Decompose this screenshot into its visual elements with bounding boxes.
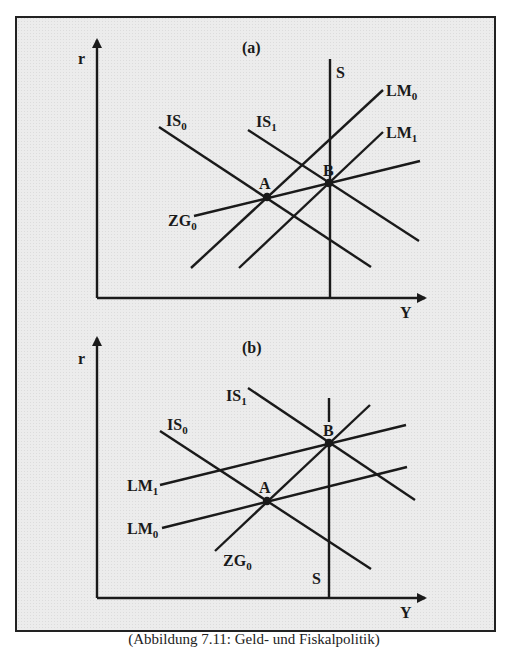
y-axis-label: r bbox=[78, 50, 85, 67]
label-s: S bbox=[336, 64, 345, 81]
figure-caption: (Abbildung 7.11: Geld- und Fiskalpolitik… bbox=[0, 631, 508, 648]
point-a-marker bbox=[264, 194, 270, 200]
x-axis-label: Y bbox=[400, 604, 412, 621]
point-a-label: A bbox=[259, 479, 271, 496]
figure-frame bbox=[16, 17, 495, 631]
point-a-marker bbox=[264, 498, 270, 504]
panel-title: (b) bbox=[242, 339, 262, 357]
point-b-label: B bbox=[323, 422, 334, 439]
label-s: S bbox=[312, 570, 321, 587]
y-axis-label: r bbox=[78, 350, 85, 367]
panel-title: (a) bbox=[242, 39, 261, 57]
x-axis-label: Y bbox=[400, 304, 412, 321]
point-b-marker bbox=[326, 180, 332, 186]
point-a-label: A bbox=[259, 175, 271, 192]
point-b-label: B bbox=[323, 162, 334, 179]
point-b-marker bbox=[326, 440, 332, 446]
